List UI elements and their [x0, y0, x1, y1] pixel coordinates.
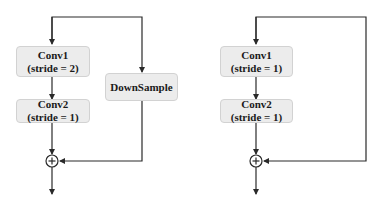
- conv1-block: Conv1 (stride = 2): [16, 46, 90, 77]
- downsample-block: DownSample: [105, 73, 178, 101]
- conv1-stride: (stride = 2): [27, 62, 78, 75]
- conv2-title: Conv2: [38, 98, 69, 111]
- conv1-title-right: Conv1: [241, 49, 272, 62]
- conv2-stride-right: (stride = 1): [231, 111, 282, 124]
- conv2-block-right: Conv2 (stride = 1): [220, 99, 293, 123]
- conv1-block-right: Conv1 (stride = 1): [220, 46, 293, 77]
- downsample-title: DownSample: [110, 81, 172, 94]
- conv2-title-right: Conv2: [241, 98, 272, 111]
- conv1-stride-right: (stride = 1): [231, 62, 282, 75]
- conv1-title: Conv1: [38, 49, 69, 62]
- identity-skip-arrow: [256, 17, 366, 161]
- conv2-block: Conv2 (stride = 1): [16, 99, 90, 123]
- conv2-stride: (stride = 1): [27, 111, 78, 124]
- diagram-canvas: Conv1 (stride = 2) Conv2 (stride = 1) Do…: [0, 0, 378, 210]
